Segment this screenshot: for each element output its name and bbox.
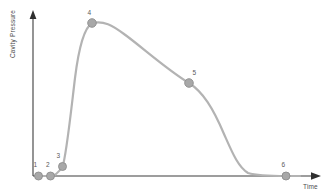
x-axis-arrow-right-icon [311, 172, 321, 180]
cavity-pressure-chart: Cavity Pressure Time 1 2 3 4 5 6 [0, 0, 335, 196]
data-point-6[interactable] [282, 172, 290, 180]
data-point-label-1: 1 [34, 161, 38, 168]
y-axis-label: Cavity Pressure [9, 44, 16, 58]
y-axis-arrow-up-icon [30, 10, 37, 19]
data-point-label-5: 5 [193, 69, 197, 76]
data-point-label-6: 6 [282, 161, 286, 168]
data-point-5[interactable] [185, 79, 194, 88]
data-point-1[interactable] [35, 172, 43, 180]
data-point-2[interactable] [47, 172, 55, 180]
data-point-4[interactable] [88, 19, 97, 28]
data-point-label-4: 4 [88, 9, 92, 16]
data-point-label-2: 2 [46, 161, 50, 168]
data-point-label-3: 3 [57, 152, 61, 159]
x-axis-label: Time [303, 183, 318, 190]
data-point-3[interactable] [59, 163, 67, 171]
cavity-pressure-curve [39, 22, 301, 176]
